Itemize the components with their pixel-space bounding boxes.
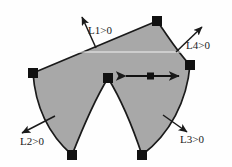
constraint-label-L3: L3>0: [180, 134, 204, 145]
bottom-right-vertex-node: [137, 150, 147, 160]
constraint-label-L4: L4>0: [186, 40, 210, 51]
constraint-label-L2: L2>0: [20, 136, 44, 147]
constraint-label-L1: L1>0: [88, 25, 112, 36]
top-apex-vertex-node: [152, 16, 162, 26]
bottom-left-vertex-node: [67, 150, 77, 160]
central-cusp-vertex-node: [103, 73, 113, 83]
right-vertex-node: [185, 60, 195, 70]
feasible-region-shape: [33, 21, 190, 155]
left-vertex-node: [28, 68, 38, 78]
figure-container: L1>0 L4>0 L2>0 L3>0: [0, 0, 232, 167]
square-marker: [147, 73, 154, 80]
